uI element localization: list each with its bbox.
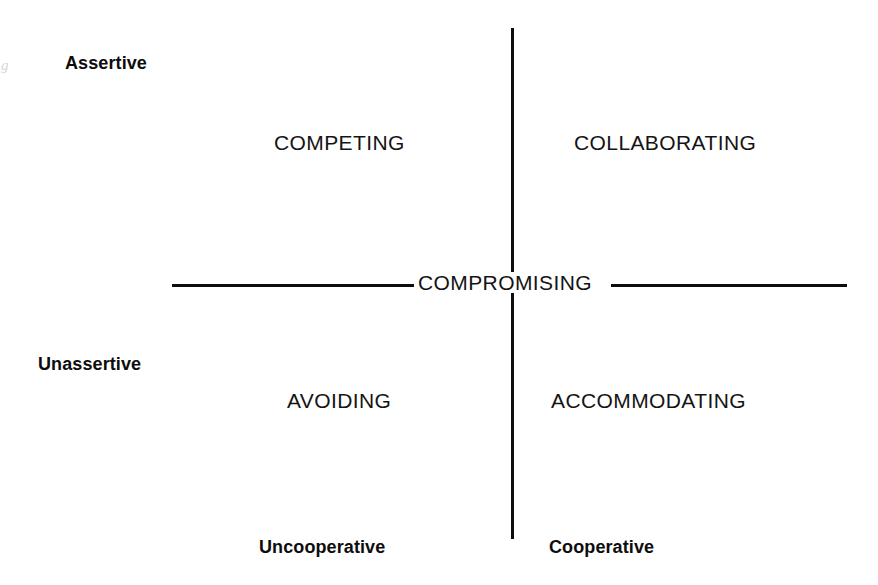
cooperativeness-axis-line-right [611,284,847,287]
axis-label-assertive: Assertive [65,54,147,72]
axis-label-cooperative: Cooperative [549,538,654,556]
mode-label-accommodating: ACCOMMODATING [551,390,746,411]
axis-label-unassertive: Unassertive [38,355,141,373]
cooperativeness-axis-line-left [172,284,415,287]
scan-artifact-mark: g [1,55,13,75]
mode-label-collaborating: COLLABORATING [574,132,756,153]
mode-label-avoiding: AVOIDING [287,390,391,411]
conflict-modes-diagram: g Assertive Unassertive Uncooperative Co… [0,0,878,585]
mode-label-competing: COMPETING [274,132,405,153]
mode-label-compromising: COMPROMISING [414,272,596,293]
axis-label-uncooperative: Uncooperative [259,538,385,556]
